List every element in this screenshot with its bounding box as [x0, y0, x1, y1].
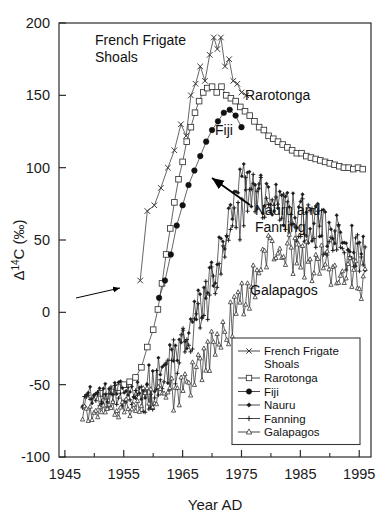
legend-label: Shoals	[264, 358, 299, 370]
data-point-circle-filled	[221, 110, 227, 116]
annotation-text: Rarotonga	[245, 87, 311, 103]
y-tick-label: -100	[21, 449, 50, 465]
annotation-text: French Frigate	[95, 32, 186, 48]
data-point-square-open	[172, 200, 178, 206]
annotation-text: Fanning	[255, 219, 306, 235]
legend-label: Fanning	[264, 413, 306, 425]
data-point-square-open	[247, 113, 253, 119]
chart-figure: 194519551965197519851995 -100-5005010015…	[0, 0, 381, 525]
y-tick-label: 200	[26, 15, 50, 31]
chart-legend[interactable]: French FrigateShoalsRarotongaFijiNauruFa…	[232, 338, 360, 445]
y-axis-label-text: Δ14C (‰)	[10, 219, 28, 280]
data-point-circle-filled	[233, 113, 239, 119]
x-tick-label: 1955	[108, 466, 140, 482]
data-point-square-open	[360, 166, 366, 172]
annotation-text: Galapagos	[250, 282, 318, 298]
annotation-text: Shoals	[95, 49, 138, 65]
data-point-circle-filled	[239, 124, 245, 130]
data-point-square-open	[184, 139, 190, 145]
annotation-rarotonga: Rarotonga	[245, 87, 311, 103]
data-point-circle-filled	[192, 168, 198, 174]
legend-label: Rarotonga	[264, 372, 318, 384]
x-tick-label: 1965	[166, 466, 198, 482]
data-point-square-open	[139, 365, 145, 371]
y-axis-label: Δ14C (‰)	[10, 219, 28, 280]
data-point-square-open	[133, 375, 139, 381]
data-point-circle-filled	[156, 295, 162, 301]
data-point-square-open	[176, 176, 182, 182]
data-point-circle-filled	[162, 278, 168, 284]
data-point-square-open	[252, 119, 258, 125]
annotation-fiji: Fiji	[215, 122, 233, 138]
data-point-square-open	[246, 375, 251, 380]
annotation-text: Fiji	[215, 122, 233, 138]
x-tick-label: 1945	[49, 466, 81, 482]
delta-14c-time-series-chart: 194519551965197519851995 -100-5005010015…	[0, 0, 381, 525]
data-point-circle-filled	[227, 107, 233, 113]
x-tick-label: 1975	[225, 466, 257, 482]
data-point-square-open	[233, 98, 239, 104]
x-axis-label: Year AD	[188, 496, 243, 513]
data-point-square-open	[214, 90, 220, 96]
data-point-square-open	[127, 379, 133, 385]
data-point-circle-filled	[203, 139, 209, 145]
legend-label: Galapagos	[264, 426, 320, 438]
x-tick-label: 1995	[343, 466, 375, 482]
data-point-square-open	[180, 159, 186, 165]
data-point-circle-filled	[174, 223, 180, 229]
data-point-square-open	[188, 124, 194, 130]
data-point-square-open	[155, 307, 161, 313]
data-point-square-open	[145, 344, 151, 350]
y-tick-label: 50	[34, 232, 50, 248]
data-point-circle-filled	[168, 252, 174, 258]
legend-label: Fiji	[264, 386, 279, 398]
data-point-circle-filled	[197, 153, 203, 159]
data-point-square-open	[261, 127, 267, 133]
data-point-circle-filled	[186, 182, 192, 188]
data-point-square-open	[209, 84, 215, 90]
y-tick-label: 0	[42, 304, 50, 320]
data-point-circle-filled	[180, 202, 186, 208]
legend-label: French Frigate	[264, 345, 339, 357]
data-point-square-open	[219, 84, 225, 90]
figure-background	[0, 0, 381, 525]
x-tick-label: 1985	[284, 466, 316, 482]
legend-label: Nauru	[264, 399, 295, 411]
y-tick-label: -50	[29, 377, 50, 393]
annotation-galapagos: Galapagos	[250, 282, 318, 298]
y-tick-label: 100	[26, 160, 50, 176]
data-point-circle-filled	[246, 389, 251, 394]
data-point-square-open	[192, 110, 198, 116]
data-point-square-open	[150, 327, 156, 333]
data-point-square-open	[196, 98, 202, 104]
data-point-square-open	[167, 226, 173, 232]
annotation-text: Nauru and	[255, 202, 320, 218]
y-tick-label: 150	[26, 87, 50, 103]
